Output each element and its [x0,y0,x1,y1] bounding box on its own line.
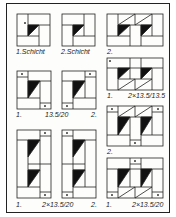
label-layer-2: 2.Schicht [61,48,90,56]
label-panel-5-num2: 2. [91,111,97,119]
panel-2-layer [62,14,95,46]
label-panel-3: 2. [107,48,113,56]
label-panel-6: 2. [107,148,113,156]
panel-6-layer [107,106,163,146]
label-panel-8-dim: 2×13.5/20 [132,201,163,209]
label-panel-5-dim: 13.5/20 [45,111,68,119]
label-layer-1: 1.Schicht [16,48,45,56]
panel-5a-layer [17,71,51,109]
label-panel-4-dim: 2×13.5/13.5 [128,92,165,100]
label-panel-5-num: 1. [16,111,22,119]
label-panel-7-num2: 2. [91,201,97,209]
panel-5b-layer [62,71,96,109]
panel-3-layer [107,14,163,46]
label-panel-7-num: 1. [16,201,22,209]
panel-4-layer [107,58,163,90]
panel-7a-layer [17,130,51,198]
label-panel-7-dim: 2×13.5/20 [42,201,73,209]
label-panel-4-num: 1. [107,92,113,100]
panel-1-layer [17,14,50,46]
panel-8-layer [107,158,163,198]
brick-bond-diagrams [0,0,176,217]
panel-7b-layer [62,130,96,198]
label-panel-8-num: 1. [106,201,112,209]
